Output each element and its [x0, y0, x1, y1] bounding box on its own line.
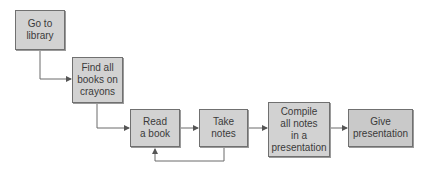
node-label: Take notes [211, 116, 235, 140]
arrow-find-to-read [97, 103, 129, 128]
arrow-take-to-read-loop [155, 147, 224, 161]
node-take-notes: Take notes [199, 109, 248, 147]
node-find-books: Find all books on crayons [72, 57, 123, 103]
node-label: Compile all notes in a presentation [271, 106, 326, 154]
node-compile-notes: Compile all notes in a presentation [268, 102, 330, 157]
node-label: Give presentation [353, 116, 408, 140]
node-read-book: Read a book [130, 109, 180, 147]
arrow-library-to-find [40, 50, 71, 79]
node-label: Go to library [26, 18, 53, 42]
connectors [0, 0, 436, 176]
node-give-presentation: Give presentation [348, 109, 413, 147]
node-go-to-library: Go to library [15, 10, 65, 50]
node-label: Find all books on crayons [77, 62, 118, 98]
node-label: Read a book [140, 116, 170, 140]
